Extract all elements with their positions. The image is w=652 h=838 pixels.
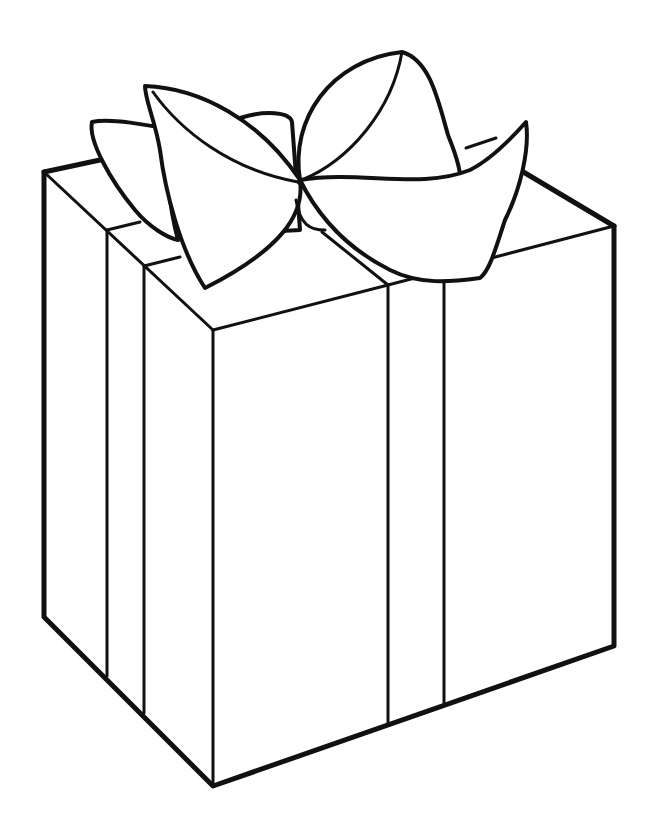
gift-box-illustration: [0, 0, 652, 838]
ribbon-top-left-1: [107, 222, 140, 230]
bow: [92, 52, 527, 288]
bow-knot: [297, 179, 303, 185]
box-top-back-right-edge: [520, 170, 614, 226]
box-outline: [44, 172, 614, 786]
ribbon-top-left-2: [144, 257, 180, 266]
gift-box: [44, 160, 614, 786]
ribbon-top-right-2: [466, 138, 496, 148]
box-top-back-left-edge: [44, 160, 100, 172]
